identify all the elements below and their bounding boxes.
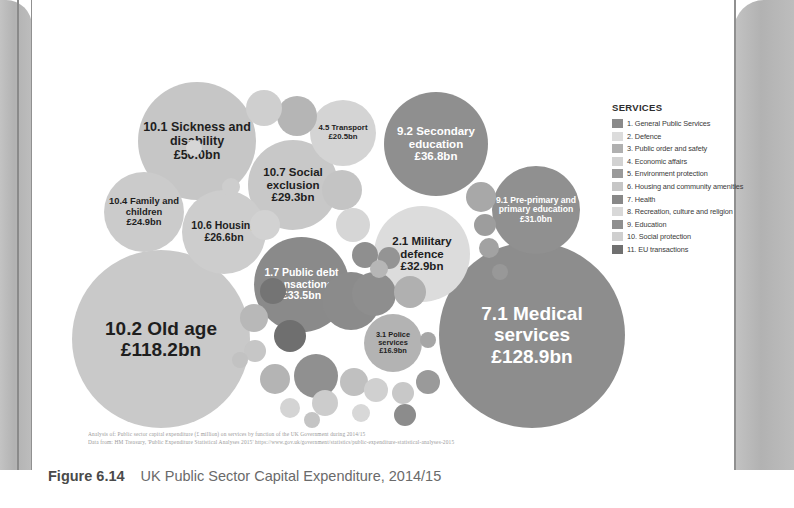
legend-swatch-icon [612,119,623,128]
bubble-unlabelled [222,178,240,196]
legend-label: 7. Health [627,195,655,204]
bubble-unlabelled [336,208,370,242]
bubble-9.2: 9.2 Secondary education£36.8bn [384,92,488,196]
bubble-value: £31.0bn [494,215,578,225]
bubble-value: £16.9bn [366,347,420,355]
bubble-unlabelled [232,352,248,368]
bubble-unlabelled [492,264,508,280]
figure-title: UK Public Sector Capital Expenditure, 20… [141,468,442,484]
legend-swatch-icon [612,132,623,141]
legend-label: 2. Defence [627,132,661,141]
bubble-unlabelled [392,382,414,404]
legend-item: 6. Housing and community amenities [612,182,792,191]
bubble-unlabelled [352,272,396,316]
legend-item: 5. Environment protection [612,169,792,178]
bubble-unlabelled [474,214,496,236]
bubble-chart: 7.1 Medical services£128.9bn10.2 Old age… [64,82,624,422]
legend-swatch-icon [612,207,623,216]
legend-swatch-icon [612,220,623,229]
bubble-unlabelled [246,90,282,126]
bubble-label: 10.2 Old age [74,318,248,339]
bubble-4.5: 4.5 Transport£20.5bn [310,100,376,166]
bubble-unlabelled [186,140,202,156]
bubble-10.4: 10.4 Family and children£24.9bn [104,172,184,252]
page-edge-left [0,0,32,470]
bubble-unlabelled [304,412,320,428]
bubble-unlabelled [280,398,300,418]
bubble-unlabelled [364,378,388,402]
legend-label: 1. General Public Services [627,119,710,128]
bubble-unlabelled [394,276,426,308]
legend-label: 5. Environment protection [627,169,708,178]
bubble-label: 9.1 Pre-primary and primary education [494,196,578,215]
bubble-unlabelled [466,182,496,212]
source-line-2: Data from: HM Treasury, 'Public Expendit… [88,438,628,446]
legend-item: 1. General Public Services [612,119,792,128]
legend-item: 2. Defence [612,132,792,141]
bubble-label: 9.2 Secondary education [386,125,486,151]
bubble-unlabelled [260,364,290,394]
bubble-label: 10.4 Family and children [106,196,182,217]
source-line-1: Analysis of: Public sector capital expen… [88,430,628,438]
legend-item: 8. Recreation, culture and religion [612,207,792,216]
bubble-unlabelled [420,332,436,348]
bubble-9.1: 9.1 Pre-primary and primary education£31… [492,166,580,254]
source-note: Analysis of: Public sector capital expen… [88,430,628,447]
bubble-value: £24.9bn [106,217,182,228]
legend-item: 7. Health [612,195,792,204]
bubble-unlabelled [322,170,362,210]
legend-swatch-icon [612,182,623,191]
legend-label: 4. Economic affairs [627,157,687,166]
legend-label: 11. EU transactions [627,245,688,254]
bubble-value: £20.5bn [312,133,374,142]
bubble-unlabelled [240,304,268,332]
legend-swatch-icon [612,232,623,241]
bubble-unlabelled [394,404,416,426]
legend-swatch-icon [612,144,623,153]
bubble-3.1: 3.1 Police services£16.9bn [364,314,422,372]
bubble-value: £118.2bn [74,339,248,360]
bubble-10.2: 10.2 Old age£118.2bn [72,250,250,428]
bubble-value: £128.9bn [441,346,623,367]
legend-item: 3. Public order and safety [612,144,792,153]
bubble-unlabelled [277,96,317,136]
scanned-page: 7.1 Medical services£128.9bn10.2 Old age… [0,0,794,508]
bubble-unlabelled [352,404,370,422]
legend-label: 3. Public order and safety [627,144,707,153]
legend-title: SERVICES [612,102,792,113]
legend-label: 9. Education [627,220,666,229]
legend-swatch-icon [612,157,623,166]
bubble-unlabelled [370,260,388,278]
legend-items: 1. General Public Services2. Defence3. P… [612,119,792,254]
legend: SERVICES 1. General Public Services2. De… [612,102,792,258]
bubble-label: 3.1 Police services [366,331,420,348]
figure-number: Figure 6.14 [48,468,125,484]
legend-label: 10. Social protection [627,232,691,241]
bubble-value: £36.8bn [386,150,486,163]
bubble-unlabelled [274,320,306,352]
figure-content: 7.1 Medical services£128.9bn10.2 Old age… [34,0,734,470]
legend-item: 9. Education [612,220,792,229]
bubble-label: 7.1 Medical services [441,303,623,346]
bubble-unlabelled [479,238,499,258]
legend-item: 4. Economic affairs [612,157,792,166]
legend-label: 6. Housing and community amenities [627,182,743,191]
legend-label: 8. Recreation, culture and religion [627,207,733,216]
bubble-unlabelled [250,210,280,240]
legend-item: 11. EU transactions [612,245,792,254]
legend-swatch-icon [612,195,623,204]
legend-swatch-icon [612,245,623,254]
legend-swatch-icon [612,169,623,178]
bubble-unlabelled [416,370,440,394]
legend-item: 10. Social protection [612,232,792,241]
bubble-unlabelled [260,278,286,304]
figure-caption: Figure 6.14 UK Public Sector Capital Exp… [48,468,441,484]
